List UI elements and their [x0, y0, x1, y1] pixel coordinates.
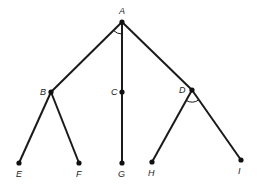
node-B — [48, 89, 53, 94]
node-label-A: A — [118, 6, 125, 16]
edge-A-D — [122, 22, 192, 90]
edge-B-E — [19, 92, 51, 163]
tree-nodes — [16, 19, 243, 165]
node-I — [238, 157, 243, 162]
node-G — [119, 160, 124, 165]
edge-A-B — [51, 22, 122, 92]
edge-B-F — [51, 92, 79, 163]
node-label-E: E — [16, 169, 23, 179]
angle-arcs — [113, 30, 198, 102]
node-F — [76, 160, 81, 165]
node-label-H: H — [148, 168, 155, 178]
node-A — [119, 19, 124, 24]
node-C — [119, 89, 124, 94]
node-label-I: I — [238, 166, 241, 176]
node-label-F: F — [76, 169, 82, 179]
edge-D-I — [192, 90, 241, 160]
node-D — [189, 87, 194, 92]
node-label-G: G — [118, 169, 125, 179]
tree-diagram: ABCDEFGHI — [0, 0, 257, 184]
node-label-D: D — [179, 85, 186, 95]
angle-arc-A — [113, 30, 122, 34]
node-H — [149, 159, 154, 164]
node-label-B: B — [40, 87, 46, 97]
angle-arc-D — [186, 100, 199, 102]
node-label-C: C — [111, 87, 118, 97]
node-E — [16, 160, 21, 165]
